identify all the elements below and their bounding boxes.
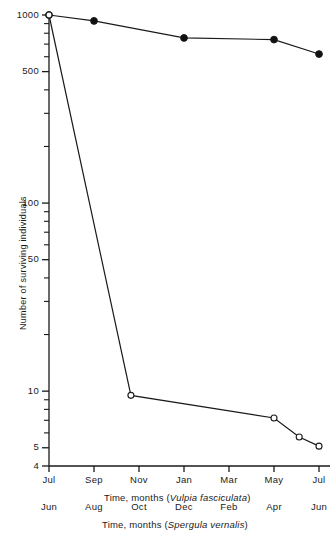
x-axis-ticks — [49, 466, 319, 472]
y-tick-label: 10 — [2, 385, 39, 396]
x-tick-label-primary: Mar — [209, 474, 249, 485]
y-axis-title: Number of surviving individuals — [18, 196, 28, 330]
series-line-1 — [49, 15, 319, 446]
x-tick-label-secondary: Feb — [209, 501, 249, 512]
x-tick-label-primary: Jan — [164, 474, 204, 485]
data-point-marker — [128, 392, 134, 398]
data-point-marker — [181, 35, 188, 42]
y-axis-minor-ticks — [44, 24, 49, 433]
caption-secondary-suffix: ) — [245, 519, 248, 530]
x-tick-label-secondary: Jun — [299, 501, 334, 512]
x-tick-label-secondary: Dec — [164, 501, 204, 512]
caption-secondary-prefix: Time, months ( — [102, 519, 168, 530]
survivorship-chart: 1000500100501054 Number of surviving ind… — [0, 0, 334, 534]
x-tick-label-secondary: Aug — [74, 501, 114, 512]
x-tick-label-primary: Jul — [29, 474, 69, 485]
y-tick-label: 5 — [2, 441, 39, 452]
data-point-marker — [271, 36, 278, 43]
y-tick-label: 500 — [2, 65, 39, 76]
chart-canvas — [0, 0, 334, 534]
y-tick-label: 4 — [2, 460, 39, 471]
data-point-marker — [316, 51, 323, 58]
x-tick-label-primary: Nov — [119, 474, 159, 485]
data-point-marker — [316, 443, 322, 449]
x-tick-label-primary: Jul — [299, 474, 334, 485]
x-tick-label-secondary: Oct — [119, 501, 159, 512]
data-series-layer — [46, 12, 323, 450]
data-point-marker — [46, 12, 52, 18]
x-tick-label-secondary: Jun — [29, 501, 69, 512]
x-tick-label-primary: May — [254, 474, 294, 485]
data-point-marker — [91, 18, 98, 25]
data-point-marker — [271, 415, 277, 421]
x-tick-label-primary: Sep — [74, 474, 114, 485]
y-axis-major-ticks — [42, 15, 49, 466]
caption-secondary-species: Spergula vernalis — [168, 519, 245, 530]
y-tick-label: 1000 — [2, 9, 39, 20]
data-point-marker — [296, 434, 302, 440]
x-tick-label-secondary: Apr — [254, 501, 294, 512]
x-axis-secondary-caption: Time, months (Spergula vernalis) — [102, 519, 248, 530]
